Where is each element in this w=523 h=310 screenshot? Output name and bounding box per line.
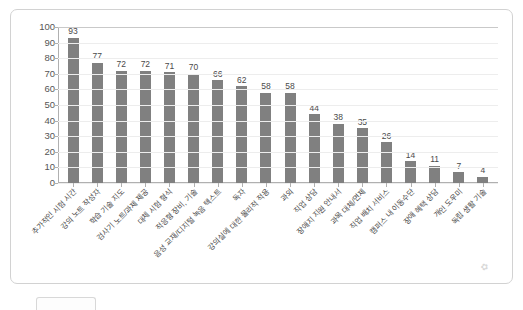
y-axis-tick-mark [54, 152, 58, 153]
y-axis-tick-label: 50 [23, 100, 55, 110]
bar[interactable] [285, 93, 296, 183]
y-axis-tick-mark [54, 74, 58, 75]
x-axis-category-labels: 추가적인 시험 시간강의 노트 작성자학습 기술 지도검사기 노트/과제 제공대… [58, 188, 498, 280]
y-axis-tick-mark [54, 105, 58, 106]
bar[interactable] [260, 93, 271, 183]
gridline [58, 43, 498, 44]
bar-value-label: 72 [141, 60, 150, 69]
y-axis-tick-mark [54, 43, 58, 44]
bar[interactable] [92, 63, 103, 183]
y-axis-tick-label: 60 [23, 85, 55, 95]
bar[interactable] [68, 38, 79, 183]
bar-value-label: 93 [68, 27, 77, 36]
bar[interactable] [405, 161, 416, 183]
caption-chip [36, 297, 96, 310]
bar[interactable] [381, 142, 392, 183]
gridline [58, 152, 498, 153]
y-axis-tick-label: 10 [23, 163, 55, 173]
gridline [58, 89, 498, 90]
y-axis-tick-mark [54, 58, 58, 59]
gridline [58, 74, 498, 75]
bar-value-label: 11 [430, 155, 439, 164]
x-axis-label-slot: 강의실에 대한 물리적 적용 [254, 188, 278, 280]
bar[interactable] [116, 71, 127, 183]
y-axis-tick-label: 30 [23, 131, 55, 141]
chart-card: 1009080706050403020100 93777272717066625… [10, 9, 513, 284]
gridline [58, 167, 498, 168]
bar-value-label: 62 [237, 76, 246, 85]
bar-value-label: 72 [117, 60, 126, 69]
gridline [58, 121, 498, 122]
gridline [58, 58, 498, 59]
chart-plot-wrapper: 1009080706050403020100 93777272717066625… [11, 10, 514, 283]
y-axis-tick-mark [54, 121, 58, 122]
y-axis-tick-label: 90 [23, 38, 55, 48]
y-axis-tick-mark [54, 136, 58, 137]
y-axis-tick-label: 40 [23, 116, 55, 126]
bar-value-label: 7 [456, 162, 461, 171]
plot-area: 9377727271706662585844383526141174 [58, 27, 498, 183]
bar[interactable] [429, 166, 440, 183]
bar-value-label: 35 [358, 118, 367, 127]
y-axis-tick-mark [54, 27, 58, 28]
y-axis-tick-label: 20 [23, 147, 55, 157]
bar[interactable] [333, 124, 344, 183]
y-axis-tick-label: 0 [23, 178, 55, 188]
bar-value-label: 77 [92, 52, 101, 61]
bar[interactable] [309, 114, 320, 183]
y-axis: 1009080706050403020100 [23, 27, 55, 183]
y-axis-tick-label: 100 [23, 22, 55, 32]
gridline [58, 136, 498, 137]
bar[interactable] [236, 86, 247, 183]
bar-value-label: 71 [165, 62, 174, 71]
gridline [58, 105, 498, 106]
y-axis-tick-label: 80 [23, 53, 55, 63]
y-axis-tick-mark [54, 89, 58, 90]
x-axis-category-label: 과외 [280, 188, 295, 203]
x-axis-category-label: 독자 [232, 188, 247, 203]
bar[interactable] [453, 172, 464, 183]
bar[interactable] [140, 71, 151, 183]
gridline [58, 27, 498, 28]
bar-value-label: 70 [189, 63, 198, 72]
y-axis-tick-mark [54, 167, 58, 168]
y-axis-tick-label: 70 [23, 69, 55, 79]
